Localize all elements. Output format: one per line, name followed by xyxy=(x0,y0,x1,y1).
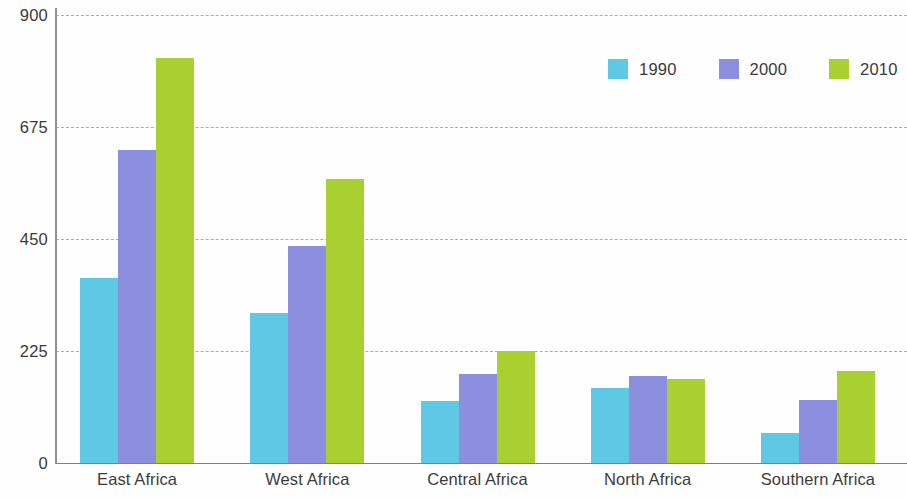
y-axis-tick-labels: 0225450675900 xyxy=(0,0,48,498)
bar[interactable] xyxy=(326,179,364,463)
y-tick-label: 675 xyxy=(0,118,48,137)
legend-item[interactable]: 2000 xyxy=(719,59,788,79)
bar[interactable] xyxy=(421,401,459,463)
legend-swatch-icon xyxy=(829,59,849,79)
bars-layer xyxy=(56,15,907,463)
plot-area xyxy=(56,15,907,463)
bar-group xyxy=(80,15,194,463)
y-tick-label: 225 xyxy=(0,342,48,361)
bar[interactable] xyxy=(837,371,875,463)
x-tick-label: Southern Africa xyxy=(761,470,875,489)
bar[interactable] xyxy=(118,150,156,463)
bar[interactable] xyxy=(629,376,667,463)
legend-label: 2010 xyxy=(860,60,898,79)
bar-chart-figure: 0225450675900 East AfricaWest AfricaCent… xyxy=(0,0,907,498)
x-tick-label: North Africa xyxy=(604,470,691,489)
bar-group xyxy=(591,15,705,463)
bar[interactable] xyxy=(761,433,799,463)
legend-item[interactable]: 1990 xyxy=(608,59,677,79)
bar[interactable] xyxy=(156,58,194,463)
legend-swatch-icon xyxy=(719,59,739,79)
axis-baseline xyxy=(56,463,907,464)
y-tick-label: 0 xyxy=(0,454,48,473)
chart-legend: 199020002010 xyxy=(608,58,898,80)
bar[interactable] xyxy=(288,246,326,463)
bar[interactable] xyxy=(667,379,705,463)
bar[interactable] xyxy=(591,388,629,463)
bar[interactable] xyxy=(80,278,118,463)
bar-group xyxy=(250,15,364,463)
bar[interactable] xyxy=(459,374,497,463)
legend-label: 1990 xyxy=(639,60,677,79)
y-tick-label: 900 xyxy=(0,6,48,25)
bar-group xyxy=(421,15,535,463)
legend-label: 2000 xyxy=(750,60,788,79)
legend-swatch-icon xyxy=(608,59,628,79)
bar[interactable] xyxy=(497,351,535,463)
x-axis-category-labels: East AfricaWest AfricaCentral AfricaNort… xyxy=(56,470,907,498)
y-tick-label: 450 xyxy=(0,230,48,249)
x-tick-label: East Africa xyxy=(97,470,177,489)
bar[interactable] xyxy=(250,313,288,463)
legend-item[interactable]: 2010 xyxy=(829,59,898,79)
x-tick-label: West Africa xyxy=(265,470,349,489)
x-tick-label: Central Africa xyxy=(427,470,527,489)
bar-group xyxy=(761,15,875,463)
bar[interactable] xyxy=(799,400,837,463)
